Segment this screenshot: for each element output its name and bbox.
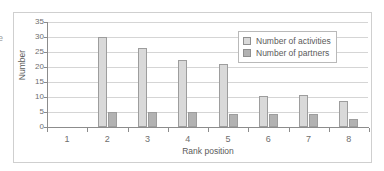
x-axis-tick-label: 2: [95, 134, 119, 144]
bar-partners-rank-4: [188, 112, 197, 127]
bar-activities-rank-4: [178, 60, 187, 127]
legend-label-partners: Number of partners: [256, 49, 329, 58]
x-axis-tick-mark: [128, 128, 129, 132]
bar-activities-rank-5: [219, 64, 228, 127]
x-axis-tick-mark: [289, 128, 290, 132]
bar-partners-rank-2: [108, 112, 117, 127]
x-axis-tick-label: 3: [136, 134, 160, 144]
y-axis-tick-label: 5: [26, 108, 44, 116]
chart-figure: e 05101520253035 Number 12345678 Rank po…: [0, 0, 384, 171]
bar-partners-rank-3: [148, 112, 157, 127]
chart-legend: Number of activities Number of partners: [238, 31, 337, 63]
y-axis-title: Number: [17, 35, 27, 95]
x-axis-tick-mark: [248, 128, 249, 132]
legend-swatch-icon-partners: [243, 49, 251, 57]
legend-swatch-icon-activities: [243, 37, 251, 45]
y-axis-tick-label: 30: [26, 33, 44, 41]
legend-item-partners: Number of partners: [243, 47, 331, 59]
bar-activities-rank-6: [259, 96, 268, 127]
y-axis-tick-label: 25: [26, 48, 44, 56]
x-axis-tick-mark: [329, 128, 330, 132]
x-axis-tick-label: 8: [337, 134, 361, 144]
x-axis-title: Rank position: [47, 146, 369, 156]
bar-activities-rank-8: [339, 101, 348, 127]
bar-activities-rank-2: [98, 37, 107, 127]
x-axis-tick-mark: [87, 128, 88, 132]
y-axis-tick-label: 15: [26, 78, 44, 86]
x-axis-tick-mark: [47, 128, 48, 132]
bar-partners-rank-7: [309, 114, 318, 128]
bar-partners-rank-8: [349, 119, 358, 127]
x-axis-tick-label: 7: [297, 134, 321, 144]
bar-partners-rank-5: [229, 114, 238, 128]
legend-item-activities: Number of activities: [243, 35, 331, 47]
x-axis-tick-label: 4: [176, 134, 200, 144]
x-axis-tick-label: 6: [256, 134, 280, 144]
bar-activities-rank-3: [138, 48, 147, 127]
y-axis-tick-label: 35: [26, 18, 44, 26]
legend-label-activities: Number of activities: [256, 37, 331, 46]
y-axis-tick-label: 0: [26, 123, 44, 131]
x-axis-tick-label: 1: [55, 134, 79, 144]
x-axis-tick-mark: [168, 128, 169, 132]
y-axis-tick-label: 10: [26, 93, 44, 101]
y-axis-tick-labels: 05101520253035: [24, 0, 44, 171]
x-axis-tick-mark: [208, 128, 209, 132]
bar-partners-rank-6: [269, 114, 278, 127]
bar-activities-rank-7: [299, 95, 308, 127]
y-axis-tick-label: 20: [26, 63, 44, 71]
x-axis-tick-mark: [369, 128, 370, 132]
page-margin-text-fragment: e: [0, 33, 3, 43]
x-axis-tick-label: 5: [216, 134, 240, 144]
